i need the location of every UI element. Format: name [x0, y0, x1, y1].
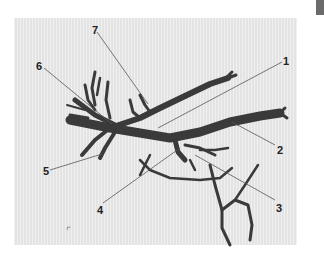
vessel-cast-illustration: [0, 0, 324, 258]
label-5: 5: [43, 166, 49, 177]
label-6: 6: [36, 61, 42, 72]
label-3: 3: [276, 203, 282, 214]
corner-mark: ⌜: [66, 226, 71, 237]
label-7: 7: [92, 25, 98, 36]
label-4: 4: [97, 205, 103, 216]
label-1: 1: [283, 56, 289, 67]
label-2: 2: [277, 145, 283, 156]
